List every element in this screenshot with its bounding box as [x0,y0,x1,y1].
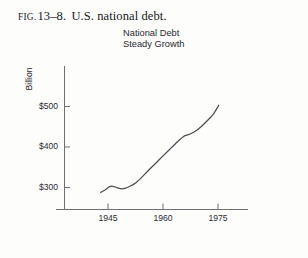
x-tick-label: 1975 [198,213,238,223]
x-tick-label: 1960 [143,213,183,223]
x-tick-labels: 194519601975 [0,0,308,258]
figure-root: FIG.13–8. U.S. national debt. National D… [0,0,308,258]
x-tick-label: 1945 [88,213,128,223]
